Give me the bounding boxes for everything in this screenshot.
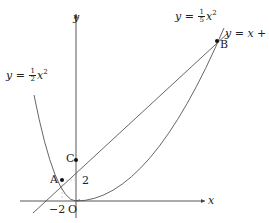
parabola-right-label: y = 15x2 <box>175 9 217 24</box>
origin-label: O <box>68 204 77 215</box>
parabola-right-prefix: y = <box>175 10 197 23</box>
point-b <box>215 39 219 43</box>
parabola-right-curve <box>76 28 224 201</box>
line-y-eq-x-plus-4 <box>33 33 228 213</box>
y-tick-2: 2 <box>82 175 89 186</box>
x-axis-label: x <box>208 195 214 206</box>
coordinate-diagram: y x O −2 2 A B C y = 12x2 y = 15x2 y = x… <box>0 0 269 223</box>
point-a-label: A <box>50 174 58 185</box>
parabola-left-prefix: y = <box>6 69 28 82</box>
point-a <box>60 178 64 182</box>
point-c <box>74 158 78 162</box>
parabola-left-fraction: 12 <box>29 68 35 83</box>
parabola-right-fraction: 15 <box>198 9 204 24</box>
point-c-label: C <box>66 153 74 164</box>
x-tick-minus-2: −2 <box>49 204 65 215</box>
line-label: y = x + 4 <box>225 28 269 39</box>
parabola-left-label: y = 12x2 <box>6 68 48 83</box>
point-b-label: B <box>220 39 228 50</box>
y-axis-label: y <box>73 12 79 23</box>
